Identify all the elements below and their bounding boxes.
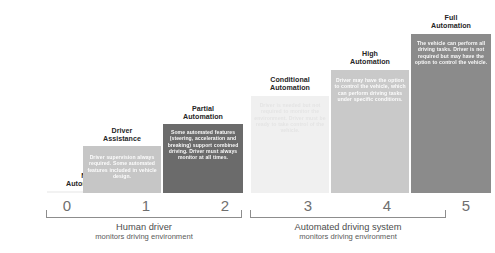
bar-body-level-1: Driver supervision always required. Some… — [83, 146, 161, 179]
bar-title-level-2-line2: Automation — [183, 113, 223, 121]
axis-bracket-right-end-tick — [445, 210, 446, 218]
group-subtitle-human-driver: monitors driving environment — [46, 232, 242, 241]
bar-level-4: Driver may have the option to control th… — [331, 70, 409, 193]
bar-level-5: The vehicle can perform all driving task… — [411, 34, 491, 193]
bar-title-level-2-line1: Partial — [192, 105, 214, 113]
bar-title-level-5: Full Automation — [411, 14, 491, 31]
bar-title-level-5-line2: Automation — [431, 22, 471, 30]
bar-level-2: Some automated features (steering, accel… — [163, 124, 243, 193]
axis-number-1: 1 — [107, 198, 185, 213]
axis-number-4: 4 — [348, 198, 426, 213]
bar-title-level-3-line2: Automation — [270, 84, 310, 92]
axis-number-0: 0 — [28, 198, 106, 213]
bar-body-level-5: The vehicle can perform all driving task… — [411, 34, 491, 65]
bar-title-level-3-line1: Conditional — [270, 76, 310, 84]
bar-title-level-2: Partial Automation — [163, 105, 243, 122]
bar-title-level-5-line1: Full — [445, 14, 458, 22]
axis-bracket-left-start-tick — [46, 210, 47, 218]
axis-number-3: 3 — [269, 198, 347, 213]
bar-body-level-2: Some automated features (steering, accel… — [163, 124, 243, 160]
bar-title-level-4-line1: High — [362, 50, 378, 58]
bar-body-level-3: Driver is needed but not required to mon… — [251, 96, 329, 133]
bar-level-3: Driver is needed but not required to mon… — [251, 96, 329, 193]
bar-level-1: Driver supervision always required. Some… — [83, 146, 161, 193]
bar-body-level-4: Driver may have the option to control th… — [331, 70, 409, 102]
bar-title-level-4: High Automation — [331, 50, 409, 67]
axis-bracket-right-line — [250, 217, 446, 218]
group-subtitle-automated-driving-system: monitors driving environment — [250, 232, 446, 241]
axis-number-2: 2 — [186, 198, 264, 213]
axis-bracket-left-end-tick — [241, 210, 242, 218]
axis-bracket-left-line — [46, 217, 242, 218]
bar-title-level-1: Driver Assistance — [83, 127, 161, 144]
bar-title-level-1-line2: Assistance — [103, 135, 141, 143]
bar-title-level-4-line2: Automation — [350, 58, 390, 66]
bar-title-level-3: Conditional Automation — [251, 76, 329, 93]
sae-automation-levels-chart: No Automation Driver supervision always … — [0, 0, 495, 253]
bar-title-level-1-line1: Driver — [112, 127, 133, 135]
axis-bracket-right-start-tick — [250, 210, 251, 218]
axis-number-5: 5 — [427, 198, 495, 213]
